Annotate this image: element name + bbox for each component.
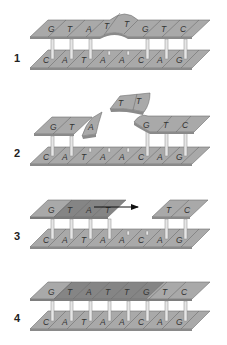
- base: A: [85, 205, 92, 215]
- base: A: [99, 55, 106, 65]
- base: G: [48, 24, 55, 34]
- base: G: [176, 235, 183, 245]
- step-label-4: 4: [14, 312, 21, 324]
- base: C: [43, 152, 50, 162]
- base: G: [176, 152, 183, 162]
- step-label-2: 2: [14, 147, 20, 159]
- step-1: 1 C A T A A C A G: [14, 13, 210, 70]
- base: A: [156, 235, 163, 245]
- base: C: [184, 205, 191, 215]
- base: A: [99, 152, 106, 162]
- base: A: [87, 122, 94, 132]
- base: T: [67, 24, 73, 34]
- base: T: [104, 21, 110, 31]
- top-strand-4: G T A T T G T C: [30, 282, 210, 301]
- base: T: [81, 55, 87, 65]
- bottom-strand-4: C A T A A C A G: [30, 311, 210, 331]
- base: T: [67, 205, 73, 215]
- base: A: [85, 24, 92, 34]
- top-strand-1: G T A T T G T C: [30, 13, 210, 39]
- base: A: [118, 55, 125, 65]
- base: C: [43, 235, 50, 245]
- base: A: [61, 317, 68, 327]
- base: C: [181, 287, 188, 297]
- base: C: [43, 55, 50, 65]
- base: C: [138, 55, 145, 65]
- base: C: [138, 235, 145, 245]
- base: C: [138, 317, 145, 327]
- base: C: [180, 24, 187, 34]
- base: T: [124, 19, 130, 29]
- step-2: 2 C A T A A C A G: [14, 93, 210, 166]
- base: G: [50, 122, 57, 132]
- base: T: [163, 120, 169, 130]
- excised-flap-a: A: [82, 112, 102, 139]
- base: A: [156, 152, 163, 162]
- base: G: [176, 55, 183, 65]
- bottom-strand-3: C A T A A C A G: [30, 229, 210, 249]
- base: C: [182, 120, 189, 130]
- base: T: [162, 287, 168, 297]
- base: A: [118, 152, 125, 162]
- base: G: [48, 287, 55, 297]
- step-label-3: 3: [14, 230, 20, 242]
- base: A: [61, 235, 68, 245]
- bottom-strand-1: C A T A A C A G: [30, 50, 210, 70]
- base: C: [43, 317, 50, 327]
- step-label-1: 1: [14, 52, 20, 64]
- base: T: [166, 205, 172, 215]
- base: T: [136, 96, 142, 106]
- base: A: [61, 152, 68, 162]
- top-strand-right-2: G T C: [134, 115, 210, 134]
- base: T: [81, 152, 87, 162]
- base: A: [99, 317, 106, 327]
- base: A: [99, 235, 106, 245]
- excised-flap-tt: T T: [110, 93, 150, 115]
- base: G: [143, 287, 150, 297]
- base: G: [176, 317, 183, 327]
- step-4: 4 C A T A A C A G: [14, 282, 210, 331]
- base: A: [85, 287, 92, 297]
- dna-repair-diagram: 1 C A T A A C A G: [0, 0, 227, 345]
- base: A: [118, 235, 125, 245]
- base: G: [143, 120, 150, 130]
- base: T: [81, 317, 87, 327]
- top-strand-left-3: G T A T: [30, 200, 138, 219]
- base: T: [67, 287, 73, 297]
- bottom-strand-2: C A T A A C A G: [30, 147, 210, 166]
- step-3: 3 C A T A A C A G: [14, 200, 210, 249]
- base: G: [48, 205, 55, 215]
- base: T: [69, 122, 75, 132]
- base: T: [105, 287, 111, 297]
- base: C: [138, 152, 145, 162]
- base: T: [161, 24, 167, 34]
- base: T: [81, 235, 87, 245]
- base: A: [118, 317, 125, 327]
- base: T: [118, 98, 124, 108]
- top-strand-right-3: T C: [152, 200, 208, 219]
- base: T: [124, 287, 130, 297]
- base: G: [142, 24, 149, 34]
- base: A: [61, 55, 68, 65]
- base: A: [156, 55, 163, 65]
- base: A: [156, 317, 163, 327]
